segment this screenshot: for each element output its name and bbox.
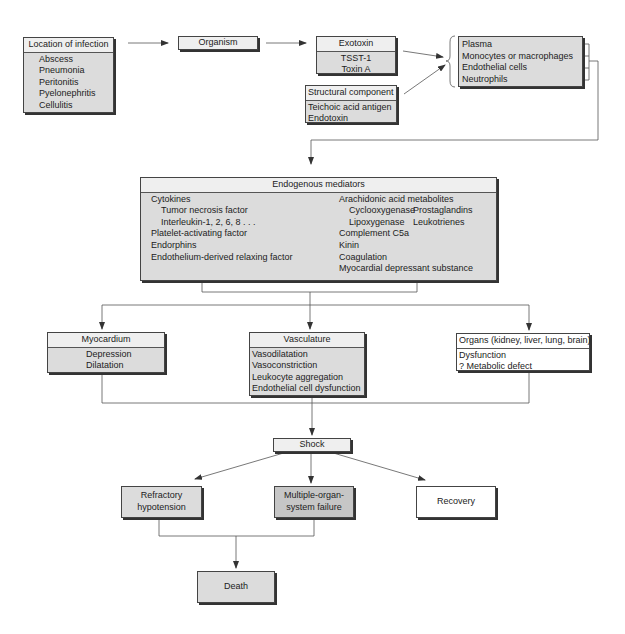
refractory-hypotension-box: Refractory hypotension xyxy=(121,486,202,518)
mediator-paf: Platelet-activating factor xyxy=(151,228,293,240)
location-item: Peritonitis xyxy=(27,77,110,89)
cell-item: Monocytes or macrophages xyxy=(462,51,579,63)
mediator-coagulation: Coagulation xyxy=(339,252,473,264)
location-item: Pyelonephritis xyxy=(27,88,110,100)
location-of-infection-title: Location of infection xyxy=(24,38,113,53)
death-title: Death xyxy=(224,581,248,593)
mediator-tnf: Tumor necrosis factor xyxy=(151,205,293,217)
vasculature-title: Vasculature xyxy=(250,333,364,348)
shock-box: Shock xyxy=(273,438,351,452)
mediator-cytokines: Cytokines xyxy=(151,194,293,206)
organs-item: ? Metabolic defect xyxy=(459,361,586,373)
vasculature-box: Vasculature Vasodilatation Vasoconstrict… xyxy=(249,332,365,396)
location-item: Pneumonia xyxy=(27,65,110,77)
organs-item: Dysfunction xyxy=(459,350,586,362)
location-of-infection-box: Location of infection Abscess Pneumonia … xyxy=(23,37,114,113)
recovery-box: Recovery xyxy=(416,486,496,518)
cell-item: Endothelial cells xyxy=(462,62,579,74)
vasculature-item: Endothelial cell dysfunction xyxy=(252,383,361,395)
myocardium-title: Myocardium xyxy=(48,333,164,348)
mediator-mds: Myocardial depressant substance xyxy=(339,263,473,275)
location-item: Cellulitis xyxy=(27,100,110,112)
endogenous-mediators-title: Endogenous mediators xyxy=(141,178,496,193)
mediator-leukotrienes: Leukotrienes xyxy=(407,217,465,229)
multiple-organ-system-failure-box: Multiple-organ- system failure xyxy=(274,486,354,518)
structural-component-box: Structural component Teichoic acid antig… xyxy=(305,85,397,123)
mediator-kinin: Kinin xyxy=(339,240,473,252)
mediator-endorphins: Endorphins xyxy=(151,240,293,252)
mediator-interleukin: Interleukin-1, 2, 6, 8 . . . xyxy=(151,217,293,229)
structural-item: Endotoxin xyxy=(308,113,393,125)
mediator-complement: Complement C5a xyxy=(339,228,473,240)
exotoxin-item: Toxin A xyxy=(320,64,392,76)
mediator-arachidonic: Arachidonic acid metabolites xyxy=(339,194,473,206)
myocardium-box: Myocardium Depression Dilatation xyxy=(47,332,165,373)
myocardium-item: Dilatation xyxy=(86,360,161,372)
mediator-cyclooxygenase: Cyclooxygenase xyxy=(349,205,407,217)
cell-item: Plasma xyxy=(462,39,579,51)
organism-box: Organism xyxy=(178,36,258,50)
refractory-line2: hypotension xyxy=(137,502,186,514)
vasculature-item: Leukocyte aggregation xyxy=(252,372,361,384)
organs-title: Organs (kidney, liver, lung, brain) xyxy=(457,334,589,349)
structural-component-title: Structural component xyxy=(306,86,396,101)
exotoxin-box: Exotoxin TSST-1 Toxin A xyxy=(316,36,396,74)
cell-item: Neutrophils xyxy=(462,74,579,86)
refractory-line1: Refractory xyxy=(141,490,183,502)
organs-box: Organs (kidney, liver, lung, brain) Dysf… xyxy=(456,333,590,371)
myocardium-item: Depression xyxy=(86,349,161,361)
recovery-title: Recovery xyxy=(437,496,475,508)
shock-title: Shock xyxy=(274,439,350,451)
exotoxin-item: TSST-1 xyxy=(320,53,392,65)
mediator-edrf: Endothelium-derived relaxing factor xyxy=(151,252,293,264)
location-item: Abscess xyxy=(27,54,110,66)
endogenous-mediators-box: Endogenous mediators Cytokines Tumor nec… xyxy=(140,177,497,281)
organism-title: Organism xyxy=(179,37,257,49)
mosf-line2: system failure xyxy=(286,502,342,514)
vasculature-item: Vasoconstriction xyxy=(252,360,361,372)
mosf-line1: Multiple-organ- xyxy=(284,490,344,502)
exotoxin-title: Exotoxin xyxy=(317,37,395,52)
mediator-prostaglandins: Prostaglandins xyxy=(407,205,473,217)
mediator-lipoxygenase: Lipoxygenase xyxy=(349,217,407,229)
death-box: Death xyxy=(197,571,275,603)
structural-item: Teichoic acid antigen xyxy=(308,102,393,114)
vasculature-item: Vasodilatation xyxy=(252,349,361,361)
host-cells-box: Plasma Monocytes or macrophages Endothel… xyxy=(458,36,583,87)
